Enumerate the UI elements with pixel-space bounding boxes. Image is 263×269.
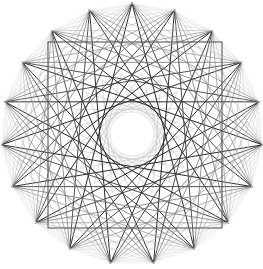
star-polygon-figure: [0, 0, 263, 269]
center-hole-fill: [118, 120, 146, 148]
center-hole: [118, 120, 146, 148]
figure-canvas: [0, 0, 263, 269]
